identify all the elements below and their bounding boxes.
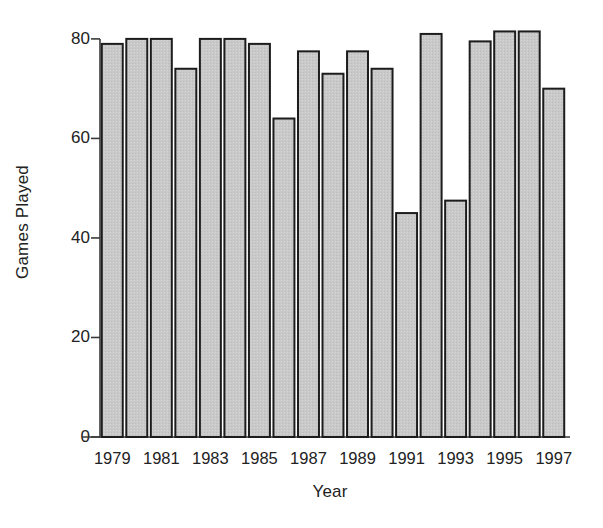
bar-rect xyxy=(543,89,564,437)
bar xyxy=(347,51,368,437)
bar xyxy=(102,44,123,437)
bar xyxy=(249,44,270,437)
bar xyxy=(126,39,147,437)
bar xyxy=(273,119,294,437)
bar xyxy=(298,51,319,437)
bar xyxy=(323,74,344,437)
bar xyxy=(372,69,393,437)
bar-rect xyxy=(470,41,491,437)
bar xyxy=(470,41,491,437)
plot-area xyxy=(0,0,603,528)
bar xyxy=(224,39,245,437)
bar xyxy=(543,89,564,437)
bar-rect xyxy=(298,51,319,437)
bar-rect xyxy=(273,119,294,437)
bar-chart-figure: Games Played Year 020406080 197919811983… xyxy=(0,0,603,528)
bar-rect xyxy=(224,39,245,437)
bar-rect xyxy=(151,39,172,437)
bar xyxy=(421,34,442,437)
bar-rect xyxy=(494,31,515,437)
bar-rect xyxy=(372,69,393,437)
bar xyxy=(175,69,196,437)
bar-rect xyxy=(126,39,147,437)
plot-svg xyxy=(0,0,603,528)
bar-rect xyxy=(445,201,466,437)
bar-rect xyxy=(175,69,196,437)
bar xyxy=(396,213,417,437)
bar xyxy=(494,31,515,437)
bar-rect xyxy=(347,51,368,437)
bar-rect xyxy=(249,44,270,437)
bar-rect xyxy=(396,213,417,437)
bar-rect xyxy=(200,39,221,437)
bar xyxy=(519,31,540,437)
bar-rect xyxy=(519,31,540,437)
bar-rect xyxy=(421,34,442,437)
bar-rect xyxy=(323,74,344,437)
bar xyxy=(200,39,221,437)
bar-rect xyxy=(102,44,123,437)
bar xyxy=(151,39,172,437)
bar xyxy=(445,201,466,437)
